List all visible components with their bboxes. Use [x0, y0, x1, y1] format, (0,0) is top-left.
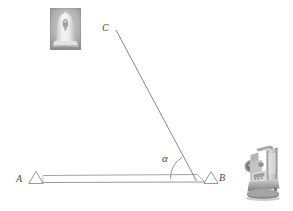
label-point-c: C [102, 23, 109, 33]
station-marker-a [29, 172, 43, 184]
total-station-artwork [236, 141, 286, 203]
baseline-bottom-rule [43, 182, 205, 183]
angle-alpha-arc [171, 157, 183, 179]
baseline-end-bevel [197, 175, 205, 183]
station-marker-b [204, 172, 218, 184]
label-angle-alpha: α [162, 153, 168, 164]
label-point-a: A [16, 174, 22, 184]
monument-photo [50, 8, 81, 50]
figure-canvas: A B C α [0, 0, 293, 211]
sight-line-c-to-b [116, 30, 197, 181]
label-point-b: B [219, 173, 225, 183]
total-station-photo [236, 141, 286, 203]
baseline-top-rule [43, 175, 197, 176]
monument-photo-artwork [50, 8, 81, 50]
baseline-strip [43, 175, 205, 183]
